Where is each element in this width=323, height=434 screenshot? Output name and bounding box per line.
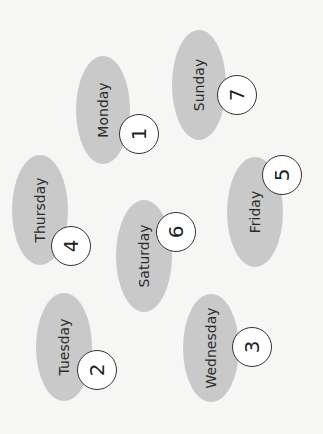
day-label: Thursday [32, 177, 48, 242]
number-circle: 2 [77, 350, 117, 390]
day-label: Friday [247, 191, 263, 233]
day-label: Saturday [136, 224, 152, 287]
day-label: Wednesday [203, 307, 219, 388]
day-oval: Wednesday [183, 294, 239, 402]
day-oval: Sunday [172, 30, 226, 140]
number-label: 3 [240, 341, 264, 354]
number-label: 1 [127, 128, 151, 141]
number-circle: 3 [232, 327, 272, 367]
day-label: Sunday [191, 59, 207, 111]
number-label: 4 [59, 240, 83, 253]
number-circle: 6 [156, 212, 196, 252]
number-circle: 5 [262, 155, 302, 195]
number-label: 7 [225, 89, 249, 102]
number-label: 5 [270, 169, 294, 182]
day-label: Monday [95, 82, 111, 137]
number-circle: 4 [51, 226, 91, 266]
number-label: 6 [164, 226, 188, 239]
day-label: Tuesday [56, 319, 72, 376]
number-circle: 7 [217, 75, 257, 115]
number-circle: 1 [119, 114, 159, 154]
number-label: 2 [85, 364, 109, 377]
day-oval: Monday [76, 56, 130, 164]
